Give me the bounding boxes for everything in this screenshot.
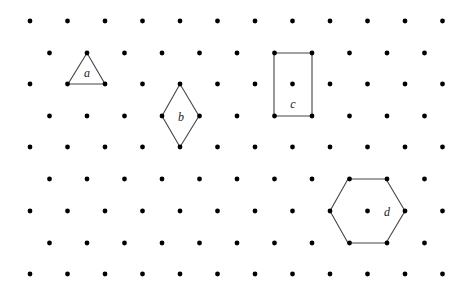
grid-dot [272, 177, 277, 182]
grid-dot [47, 177, 52, 182]
grid-dot [65, 82, 70, 87]
grid-dot [178, 82, 183, 87]
grid-dot [290, 145, 295, 150]
grid-dot [215, 19, 220, 24]
grid-dot [440, 145, 445, 150]
grid-dot [272, 241, 277, 246]
grid-dot [235, 241, 240, 246]
grid-dot [215, 209, 220, 214]
grid-dot [235, 51, 240, 56]
grid-dot [347, 177, 352, 182]
grid-dot [440, 82, 445, 87]
grid-dot [28, 82, 33, 87]
grid-dot [328, 82, 333, 87]
grid-dot [178, 145, 183, 150]
grid-dot [253, 209, 258, 214]
dot-grid [28, 19, 445, 277]
grid-dot [122, 241, 127, 246]
grid-dot [65, 272, 70, 277]
grid-dot [65, 209, 70, 214]
shape-label-a: a [84, 66, 90, 80]
grid-dot [365, 145, 370, 150]
grid-dot [422, 177, 427, 182]
shapes-layer [68, 53, 405, 243]
grid-dot [365, 82, 370, 87]
grid-dot [178, 209, 183, 214]
grid-dot [103, 82, 108, 87]
shape-label-d: d [384, 205, 391, 219]
grid-dot [272, 114, 277, 119]
grid-dot [122, 114, 127, 119]
grid-dot [290, 272, 295, 277]
grid-dot [310, 51, 315, 56]
grid-dot [328, 19, 333, 24]
grid-dot [215, 145, 220, 150]
grid-dot [65, 145, 70, 150]
grid-dot [160, 51, 165, 56]
grid-dot [178, 272, 183, 277]
grid-dot [197, 241, 202, 246]
grid-dot [122, 177, 127, 182]
grid-dot [403, 82, 408, 87]
grid-dot [253, 82, 258, 87]
grid-dot [440, 272, 445, 277]
shape-label-c: c [290, 97, 296, 111]
grid-dot [140, 82, 145, 87]
grid-dot [85, 51, 90, 56]
grid-dot [140, 145, 145, 150]
labels-layer: abcd [84, 66, 391, 219]
grid-dot [385, 51, 390, 56]
grid-dot [290, 82, 295, 87]
grid-dot [347, 114, 352, 119]
grid-dot [160, 114, 165, 119]
grid-dot [215, 82, 220, 87]
dot-grid-figure: abcd [0, 0, 471, 300]
grid-dot [103, 145, 108, 150]
grid-dot [103, 19, 108, 24]
grid-dot [365, 272, 370, 277]
grid-dot [365, 19, 370, 24]
grid-dot [235, 114, 240, 119]
grid-dot [310, 177, 315, 182]
grid-dot [160, 241, 165, 246]
grid-dot [85, 114, 90, 119]
grid-dot [310, 241, 315, 246]
grid-dot [197, 177, 202, 182]
grid-dot [290, 209, 295, 214]
grid-dot [385, 177, 390, 182]
grid-dot [28, 19, 33, 24]
grid-dot [235, 177, 240, 182]
grid-dot [347, 51, 352, 56]
grid-dot [85, 241, 90, 246]
grid-dot [422, 51, 427, 56]
grid-dot [103, 272, 108, 277]
grid-dot [328, 145, 333, 150]
grid-dot [290, 19, 295, 24]
grid-dot [140, 209, 145, 214]
grid-dot [422, 114, 427, 119]
grid-dot [85, 177, 90, 182]
grid-dot [122, 51, 127, 56]
grid-dot [347, 241, 352, 246]
grid-dot [385, 241, 390, 246]
grid-dot [440, 19, 445, 24]
grid-dot [328, 272, 333, 277]
grid-dot [28, 145, 33, 150]
grid-dot [272, 51, 277, 56]
grid-dot [365, 209, 370, 214]
grid-dot [197, 51, 202, 56]
grid-dot [403, 272, 408, 277]
grid-dot [140, 272, 145, 277]
grid-dot [197, 114, 202, 119]
grid-dot [103, 209, 108, 214]
grid-dot [28, 209, 33, 214]
grid-dot [215, 272, 220, 277]
grid-dot [403, 145, 408, 150]
grid-dot [310, 114, 315, 119]
grid-dot [253, 272, 258, 277]
grid-dot [253, 19, 258, 24]
grid-dot [403, 209, 408, 214]
grid-dot [385, 114, 390, 119]
grid-dot [28, 272, 33, 277]
grid-dot [47, 114, 52, 119]
